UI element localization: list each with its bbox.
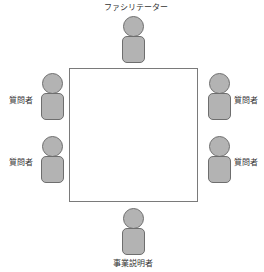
label-questioner-left-lower: 質問者	[9, 158, 33, 168]
person-icon-questioner-left-lower	[41, 136, 65, 184]
label-presenter: 事業説明者	[113, 259, 153, 269]
person-body	[122, 36, 145, 63]
person-head	[123, 16, 144, 37]
person-icon-questioner-left-upper	[41, 73, 65, 121]
person-body	[208, 156, 231, 183]
person-head	[209, 73, 230, 94]
person-icon-questioner-right-upper	[208, 73, 232, 121]
person-body	[41, 93, 64, 120]
person-head	[209, 136, 230, 157]
person-body	[208, 93, 231, 120]
label-questioner-left-upper: 質問者	[9, 96, 33, 106]
person-body	[41, 156, 64, 183]
person-icon-presenter	[122, 208, 146, 256]
person-icon-facilitator	[122, 16, 146, 64]
label-questioner-right-upper: 質問者	[234, 96, 258, 106]
label-questioner-right-lower: 質問者	[234, 158, 258, 168]
person-head	[123, 208, 144, 229]
person-icon-questioner-right-lower	[208, 136, 232, 184]
meeting-table	[69, 68, 198, 202]
person-body	[122, 228, 145, 255]
label-facilitator: ファシリテーター	[104, 3, 168, 13]
person-head	[42, 73, 63, 94]
person-head	[42, 136, 63, 157]
